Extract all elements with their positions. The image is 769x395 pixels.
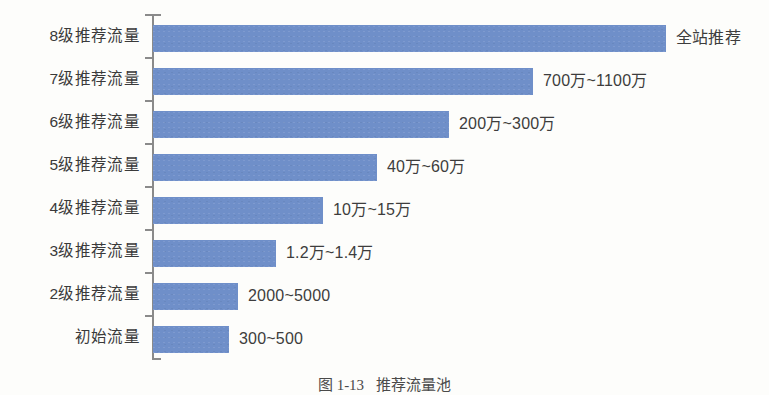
bar — [153, 68, 533, 95]
bar-row: 7级推荐流量700万~1100万 — [0, 60, 769, 103]
bar-value-label: 40万~60万 — [387, 157, 465, 177]
y-axis-tick — [145, 100, 153, 102]
y-axis-tick — [145, 229, 153, 231]
bar-value-label: 700万~1100万 — [543, 71, 647, 91]
bar-value-label: 300~500 — [239, 329, 303, 349]
bar-value-label: 全站推荐 — [676, 28, 741, 48]
y-axis-tick — [145, 57, 153, 59]
bar — [153, 197, 323, 224]
bar — [153, 25, 666, 52]
bar — [153, 326, 229, 353]
y-axis-tick — [145, 143, 153, 145]
bar-value-label: 200万~300万 — [459, 114, 556, 134]
figure-caption: 图 1-13推荐流量池 — [0, 375, 769, 395]
category-label: 4级推荐流量 — [0, 199, 140, 217]
category-label: 7级推荐流量 — [0, 70, 140, 88]
category-label: 2级推荐流量 — [0, 285, 140, 303]
bar-chart-plot-area: 8级推荐流量全站推荐7级推荐流量700万~1100万6级推荐流量200万~300… — [0, 0, 769, 362]
bar-row: 2级推荐流量2000~5000 — [0, 275, 769, 318]
bar-row: 6级推荐流量200万~300万 — [0, 103, 769, 146]
figure-number: 图 1-13 — [318, 377, 364, 393]
bar — [153, 283, 238, 310]
category-label: 初始流量 — [0, 328, 140, 346]
category-label: 8级推荐流量 — [0, 27, 140, 45]
bar-value-label: 10万~15万 — [333, 200, 411, 220]
bar — [153, 111, 449, 138]
y-axis-tick — [145, 272, 153, 274]
y-axis-top-cap — [152, 14, 161, 16]
bar — [153, 240, 276, 267]
bar — [153, 154, 377, 181]
bar-row: 3级推荐流量1.2万~1.4万 — [0, 232, 769, 275]
bar-value-label: 1.2万~1.4万 — [286, 243, 374, 263]
y-axis-tick — [145, 14, 153, 16]
category-label: 5级推荐流量 — [0, 156, 140, 174]
bar-row: 8级推荐流量全站推荐 — [0, 17, 769, 60]
bar-row: 4级推荐流量10万~15万 — [0, 189, 769, 232]
y-axis-tick — [145, 315, 153, 317]
bar-value-label: 2000~5000 — [248, 286, 330, 306]
category-label: 3级推荐流量 — [0, 242, 140, 260]
y-axis-tick — [145, 186, 153, 188]
bar-row: 初始流量300~500 — [0, 318, 769, 361]
category-label: 6级推荐流量 — [0, 113, 140, 131]
bar-row: 5级推荐流量40万~60万 — [0, 146, 769, 189]
figure-caption-text: 推荐流量池 — [376, 377, 451, 393]
